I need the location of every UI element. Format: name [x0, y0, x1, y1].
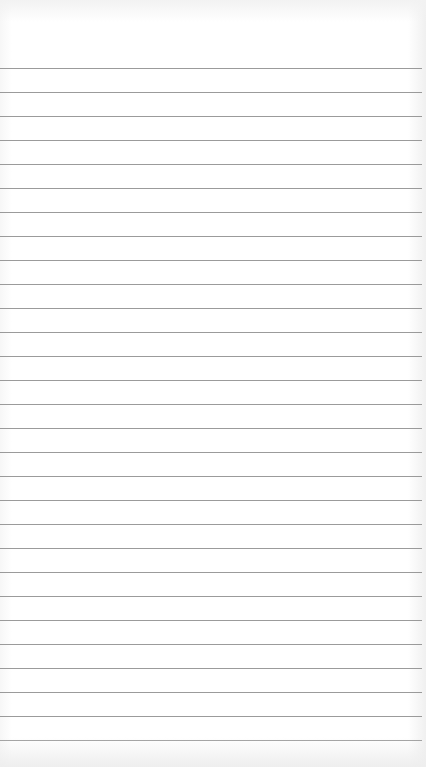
- ruled-line: [0, 140, 422, 141]
- ruled-line: [0, 668, 422, 669]
- ruled-line: [0, 212, 422, 213]
- ruled-line: [0, 404, 422, 405]
- ruled-line: [0, 236, 422, 237]
- ruled-line: [0, 692, 422, 693]
- ruled-line: [0, 332, 422, 333]
- ruled-line: [0, 500, 422, 501]
- ruled-line: [0, 596, 422, 597]
- lined-paper: [0, 0, 426, 767]
- ruled-line: [0, 644, 422, 645]
- ruled-line: [0, 572, 422, 573]
- ruled-line: [0, 716, 422, 717]
- ruled-line: [0, 92, 422, 93]
- ruled-line: [0, 116, 422, 117]
- ruled-line: [0, 476, 422, 477]
- ruled-line: [0, 68, 422, 69]
- ruled-line: [0, 380, 422, 381]
- ruled-line: [0, 164, 422, 165]
- ruled-line: [0, 452, 422, 453]
- ruled-line: [0, 548, 422, 549]
- ruled-line: [0, 308, 422, 309]
- ruled-line: [0, 620, 422, 621]
- ruled-line: [0, 284, 422, 285]
- ruled-line: [0, 524, 422, 525]
- ruled-line: [0, 428, 422, 429]
- ruled-line: [0, 260, 422, 261]
- ruled-line: [0, 356, 422, 357]
- ruled-line: [0, 188, 422, 189]
- ruled-line: [0, 740, 422, 741]
